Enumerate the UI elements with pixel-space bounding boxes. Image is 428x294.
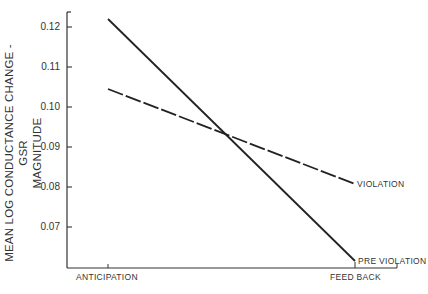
series-label-pre-violation: PRE VIOLATION	[358, 256, 426, 266]
x-category-feedback: FEED BACK	[330, 272, 381, 282]
series-pre-violation-line	[108, 19, 355, 261]
y-tick-label: 0.12	[30, 21, 60, 32]
x-category-anticipation: ANTICIPATION	[76, 272, 138, 282]
chart-plot	[0, 0, 428, 294]
y-axis-title: MEAN LOG CONDUCTANCE CHANGE - GSR MAGNIT…	[2, 38, 44, 268]
series-label-violation: VIOLATION	[357, 179, 404, 189]
y-axis-title-line2: MAGNITUDE	[30, 38, 44, 268]
y-ticks	[67, 27, 72, 227]
y-axis-title-line1: MEAN LOG CONDUCTANCE CHANGE - GSR	[2, 38, 30, 268]
series-violation-line	[108, 89, 355, 184]
